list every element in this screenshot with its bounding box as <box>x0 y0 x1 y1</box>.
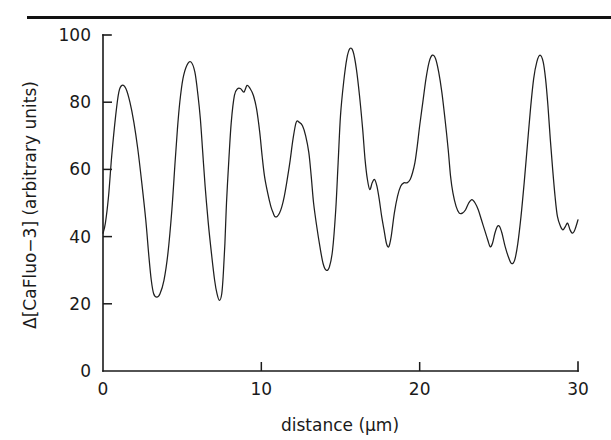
x-axis-ticks <box>261 362 419 371</box>
x-axis-title-text: distance (μm) <box>281 415 399 435</box>
y-axis-tick-labels: 020406080100 <box>59 25 91 381</box>
x-tick-label: 0 <box>98 379 109 399</box>
y-tick-label: 100 <box>59 25 91 45</box>
top-horizontal-rule <box>27 16 611 19</box>
y-axis-title: Δ[CaFluo−3] (arbitrary units) <box>20 81 40 329</box>
chart-canvas: Δ[CaFluo−3] (arbitrary units) 0204060801… <box>0 0 611 440</box>
x-tick-label: 20 <box>409 379 431 399</box>
figure-panel: Δ[CaFluo−3] (arbitrary units) 0204060801… <box>0 0 611 440</box>
x-tick-label: 30 <box>567 379 589 399</box>
y-tick-label: 40 <box>69 227 91 247</box>
y-tick-label: 60 <box>69 159 91 179</box>
axes-group: 020406080100 0102030 <box>59 25 589 399</box>
y-tick-label: 20 <box>69 294 91 314</box>
y-tick-label: 0 <box>80 361 91 381</box>
y-tick-label: 80 <box>69 92 91 112</box>
data-curve <box>103 48 578 300</box>
x-axis-tick-labels: 0102030 <box>98 379 589 399</box>
x-tick-label: 10 <box>251 379 273 399</box>
y-axis-title-text: Δ[CaFluo−3] (arbitrary units) <box>20 81 40 329</box>
